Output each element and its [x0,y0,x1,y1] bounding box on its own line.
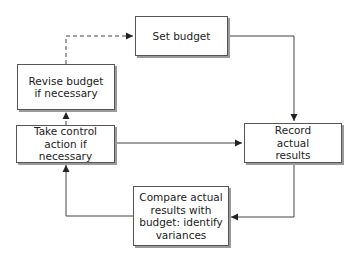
node-take-control-action: Take control action if necessary [16,125,115,163]
node-label: Revise budget if necessary [28,75,104,100]
edge-compare-to-control [66,165,133,216]
edge-set-to-record [228,36,294,121]
edge-record-to-compare [231,163,294,217]
node-label: Compare actual results with budget: iden… [137,191,225,241]
budget-control-cycle-diagram: Set budget Revise budget if necessary Ta… [0,0,356,259]
node-record-actual-results: Record actual results [244,123,342,163]
node-label: Record actual results [259,124,327,162]
node-compare-actual-results: Compare actual results with budget: iden… [133,186,229,246]
node-set-budget: Set budget [135,16,228,56]
edge-revise-to-set [66,36,133,64]
node-label: Set budget [153,30,211,43]
node-label: Take control action if necessary [19,125,112,163]
node-revise-budget: Revise budget if necessary [17,64,115,110]
